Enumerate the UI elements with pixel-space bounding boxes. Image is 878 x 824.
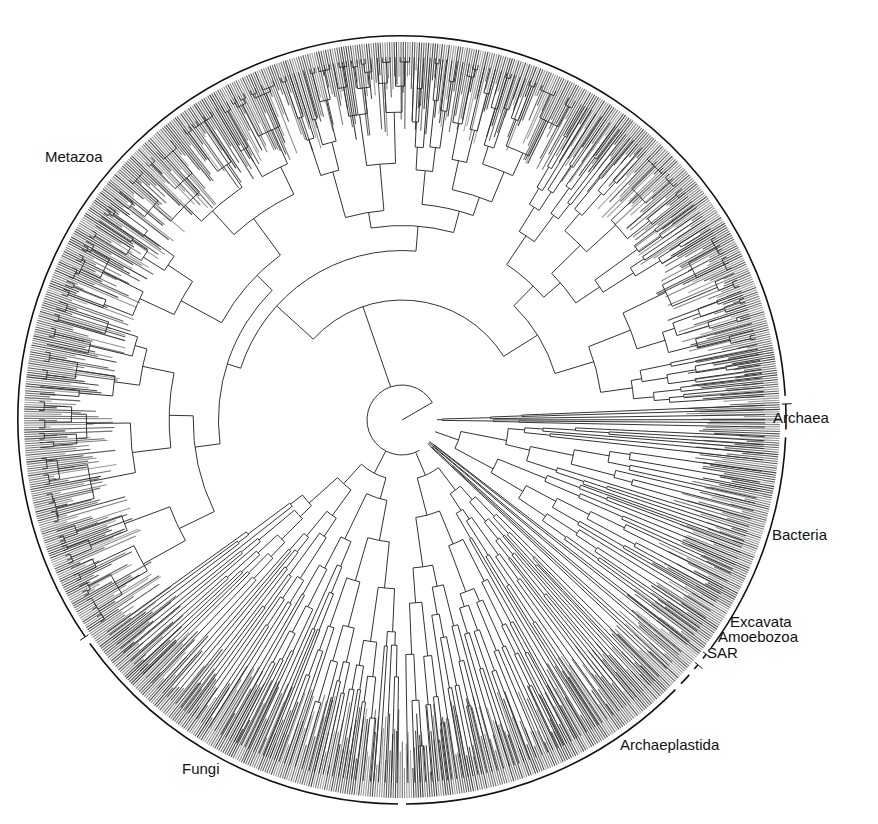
internal-branch — [396, 645, 397, 677]
internal-branch — [379, 500, 387, 540]
leaf-branch — [713, 241, 717, 244]
internal-arc — [295, 510, 303, 519]
internal-branch — [654, 389, 681, 392]
internal-arc — [298, 117, 304, 119]
internal-arc — [452, 625, 458, 627]
tip-branch — [25, 395, 50, 397]
internal-branch — [430, 100, 435, 147]
internal-arc — [368, 676, 376, 677]
internal-branch — [300, 506, 311, 517]
internal-branch — [494, 652, 506, 682]
internal-branch — [591, 512, 625, 528]
internal-arc — [432, 585, 443, 587]
internal-branch — [360, 702, 363, 721]
internal-arc — [424, 656, 432, 657]
internal-branch — [308, 569, 327, 607]
internal-arc — [174, 281, 193, 314]
tip-branch — [406, 744, 407, 798]
internal-branch — [424, 656, 429, 704]
internal-branch — [242, 555, 260, 572]
internal-branch — [417, 478, 427, 515]
leaf-branch — [746, 318, 751, 319]
clade-stem — [374, 451, 386, 473]
internal-arc — [441, 637, 447, 638]
internal-branch — [394, 677, 395, 705]
internal-branch — [492, 172, 504, 202]
internal-arc — [101, 614, 105, 619]
tip-branch — [24, 424, 94, 425]
internal-arc — [323, 141, 337, 145]
clade-ring-excavata — [703, 654, 706, 658]
internal-branch — [545, 481, 580, 496]
internal-branch — [432, 656, 437, 697]
internal-branch — [616, 470, 628, 473]
internal-branch — [333, 172, 346, 218]
leaf-branch — [92, 231, 96, 234]
internal-branch — [309, 630, 320, 658]
internal-arc — [467, 76, 474, 77]
internal-branch — [309, 478, 337, 503]
tip-branch — [730, 403, 780, 405]
internal-branch — [525, 428, 543, 429]
internal-branch — [608, 462, 630, 467]
internal-arc — [449, 539, 463, 545]
internal-arc — [321, 170, 339, 175]
internal-branch — [438, 468, 455, 490]
internal-arc — [484, 93, 489, 94]
internal-arc — [169, 373, 174, 448]
internal-branch — [513, 153, 523, 176]
internal-arc — [473, 69, 478, 70]
internal-branch — [575, 178, 601, 209]
tip-branch — [29, 476, 54, 480]
internal-arc — [433, 696, 438, 697]
internal-branch — [417, 62, 418, 88]
internal-arc — [347, 578, 360, 582]
internal-arc — [708, 322, 710, 328]
internal-arc — [346, 211, 384, 218]
internal-branch — [373, 642, 377, 677]
internal-branch — [386, 646, 388, 670]
internal-branch — [273, 631, 290, 662]
internal-arc — [303, 495, 312, 506]
internal-branch — [371, 63, 372, 72]
internal-branch — [640, 364, 671, 370]
leaf-branch — [41, 387, 46, 388]
internal-branch — [179, 512, 214, 529]
leaf-branch — [500, 71, 501, 76]
internal-branch — [459, 685, 464, 709]
internal-arc — [673, 323, 677, 336]
internal-arc — [368, 538, 390, 542]
internal-arc — [379, 83, 388, 84]
internal-branch — [479, 630, 494, 671]
leaf-branch — [579, 104, 582, 108]
internal-arc — [344, 662, 350, 663]
root-branch — [402, 403, 432, 421]
internal-branch — [571, 173, 596, 205]
internal-arc — [527, 447, 531, 461]
internal-arc — [460, 589, 474, 594]
internal-branch — [360, 666, 364, 690]
internal-branch — [369, 212, 372, 228]
internal-arc — [552, 273, 576, 303]
internal-branch — [642, 378, 667, 382]
leaf-branch — [563, 593, 650, 686]
internal-arc — [263, 86, 274, 91]
internal-branch — [519, 422, 549, 423]
internal-branch — [281, 167, 294, 194]
internal-branch — [439, 614, 443, 637]
internal-branch — [633, 480, 679, 492]
internal-branch — [442, 420, 493, 421]
internal-arc — [361, 464, 386, 478]
internal-arc — [477, 600, 483, 603]
internal-branch — [474, 589, 480, 602]
internal-branch — [266, 597, 280, 618]
internal-branch — [333, 681, 341, 715]
internal-branch — [461, 432, 507, 441]
tip-branch — [395, 731, 396, 798]
internal-arc — [529, 204, 539, 210]
internal-branch — [290, 534, 304, 551]
tip-branch — [24, 427, 51, 428]
internal-branch — [623, 548, 653, 565]
tip-branch — [393, 729, 395, 798]
internal-branch — [477, 603, 497, 651]
